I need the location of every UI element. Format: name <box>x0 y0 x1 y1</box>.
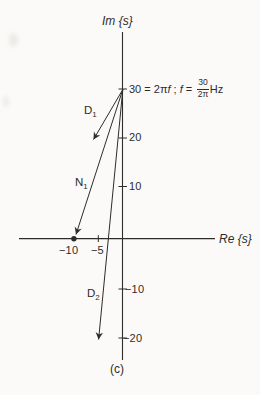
im-axis-label: Im {s} <box>102 15 133 27</box>
vector-label-d2: D2 <box>87 288 100 300</box>
figure-caption: (c) <box>110 363 124 375</box>
annotation-equals: = <box>183 83 196 95</box>
annotation-fraction: 302π <box>197 78 208 100</box>
re-tick-label-neg5: −5 <box>91 245 104 256</box>
vector-d2-subscript: 2 <box>95 293 99 302</box>
re-tick-label-neg10: −10 <box>59 245 78 256</box>
fraction-denominator: 2π <box>198 90 209 100</box>
im-tick-label-neg10: −10 <box>125 284 144 295</box>
vector-label-d1: D1 <box>84 105 97 117</box>
annotation-unit: Hz <box>210 83 223 95</box>
vector-n1-subscript: 1 <box>83 182 87 191</box>
im-tick-label-10: 10 <box>129 181 142 192</box>
s-plane-vector-diagram: Im {s} Re {s} 30 = 2πf ; f = 302πHz 20 1… <box>0 0 260 395</box>
im-tick-label-20: 20 <box>129 132 142 143</box>
zero-marker-dot <box>71 236 76 241</box>
eval-point-annotation: 30 = 2πf ; f = 302πHz <box>129 78 223 100</box>
re-axis-label: Re {s} <box>219 233 252 245</box>
vector-label-n1: N1 <box>75 177 88 189</box>
vector-d1-subscript: 1 <box>92 110 96 119</box>
fraction-numerator: 30 <box>197 78 208 89</box>
im-tick-label-neg20: −20 <box>123 333 142 344</box>
annotation-separator: ; <box>171 83 180 95</box>
annotation-lead: 30 = 2π <box>129 83 167 95</box>
